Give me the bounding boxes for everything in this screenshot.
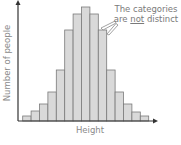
x-axis-arrow-icon [153, 119, 158, 124]
histogram-bar [65, 30, 73, 121]
histogram-bar [90, 14, 98, 121]
y-axis-arrow-icon [16, 0, 21, 5]
histogram-bar [73, 14, 81, 121]
annotation-line-1: The categories [112, 4, 180, 14]
histogram-bar [132, 112, 140, 121]
histogram-bar [31, 111, 39, 121]
histogram-bar [48, 92, 56, 121]
x-axis-label: Height [60, 125, 120, 135]
annotation-emphasis: not [130, 14, 144, 24]
histogram-bar [56, 70, 64, 121]
histogram-bar [98, 30, 106, 121]
histogram-bar [140, 116, 148, 121]
histogram-bar [23, 116, 31, 121]
histogram-bars [23, 7, 149, 121]
histogram-bar [40, 104, 48, 121]
y-axis-label: Number of people [2, 23, 12, 103]
histogram-bar [124, 104, 132, 121]
histogram-bar [107, 70, 115, 121]
histogram-bar [82, 7, 90, 121]
annotation-note: The categories are not distinct [112, 4, 180, 24]
histogram-bar [115, 92, 123, 121]
annotation-line-2: are not distinct [112, 14, 180, 24]
